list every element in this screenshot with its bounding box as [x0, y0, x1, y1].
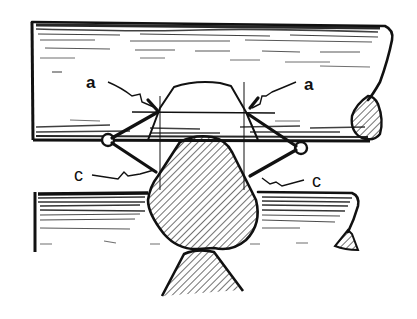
- label-a-right: a: [304, 76, 313, 93]
- label-a-left: a: [86, 74, 95, 91]
- label-c-left: c: [74, 166, 83, 184]
- log-notch-illustration: [0, 0, 417, 319]
- diagram-canvas: a a c c: [0, 0, 417, 319]
- label-c-right: c: [312, 172, 321, 190]
- support-log-section: [162, 250, 243, 296]
- round-log-section: [148, 136, 258, 249]
